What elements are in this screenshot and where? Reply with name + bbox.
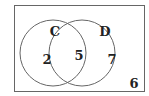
set-c-label: C xyxy=(50,24,60,39)
venn-diagram: C D 2 5 7 6 xyxy=(0,0,149,96)
outside-value: 6 xyxy=(129,76,138,91)
set-d-label: D xyxy=(99,24,110,39)
intersection-value: 5 xyxy=(74,48,83,63)
c-only-value: 2 xyxy=(42,52,51,67)
d-only-value: 7 xyxy=(107,52,116,67)
